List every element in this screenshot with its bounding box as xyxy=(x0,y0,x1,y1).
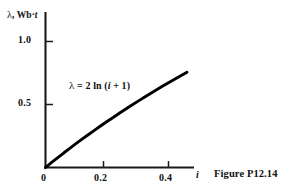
y-tick-label-0-5: 0.5 xyxy=(18,98,31,108)
x-tick-label-0: 0 xyxy=(41,173,46,183)
equation-tail-part: + 1) xyxy=(111,80,131,91)
equation-operator-part: = 2 ln ( xyxy=(74,80,107,91)
x-tick-label-0-2: 0.2 xyxy=(94,173,107,183)
figure-container: λ, Wb·t 1.0 0.5 0 0.2 0.4 i λ = 2 ln (i … xyxy=(0,0,283,194)
y-tick-label-1-0: 1.0 xyxy=(18,35,31,45)
curve-equation-annotation: λ = 2 ln (i + 1) xyxy=(69,80,130,91)
figure-caption: Figure P12.14 xyxy=(214,169,278,180)
y-axis-unit: Wb· xyxy=(17,10,35,20)
y-axis-title: λ, Wb·t xyxy=(7,10,37,21)
plot-area xyxy=(0,0,283,194)
x-tick-label-0-4: 0.4 xyxy=(159,173,172,183)
y-axis-unit-turns: t xyxy=(35,10,38,20)
x-axis-title: i xyxy=(196,170,199,180)
